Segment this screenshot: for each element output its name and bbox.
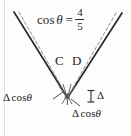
theta-symbol-left: θ	[27, 91, 32, 103]
formula-theta-symbol: θ	[56, 13, 62, 26]
annotation-delta-cos-bottom: Δcosθ	[72, 108, 101, 119]
cosine-formula: cos θ = 4 5	[37, 7, 84, 33]
cos-label-left: cos	[12, 91, 27, 103]
math-figure: cos θ = 4 5 C D Δcosθ Δ Δcosθ	[0, 0, 131, 136]
fraction-numerator: 4	[76, 7, 84, 18]
annotation-delta-right: Δ	[97, 90, 104, 101]
fraction-denominator: 5	[76, 21, 84, 32]
delta-symbol-bottom: Δ	[72, 107, 79, 119]
annotation-delta-cos-left: Δcosθ	[3, 92, 32, 103]
point-label-d: D	[72, 54, 81, 67]
formula-equals-sign: =	[66, 13, 73, 26]
delta-symbol-right: Δ	[97, 89, 104, 101]
formula-function-label: cos	[37, 13, 55, 26]
leader-line-bottom-right	[71, 99, 80, 106]
point-label-c: C	[55, 54, 64, 67]
formula-fraction: 4 5	[75, 7, 84, 33]
vertex-point	[65, 94, 70, 99]
cos-label-bottom: cos	[81, 107, 96, 119]
delta-symbol-left: Δ	[3, 91, 10, 103]
theta-symbol-bottom: θ	[96, 107, 101, 119]
leader-line-left	[53, 92, 63, 99]
